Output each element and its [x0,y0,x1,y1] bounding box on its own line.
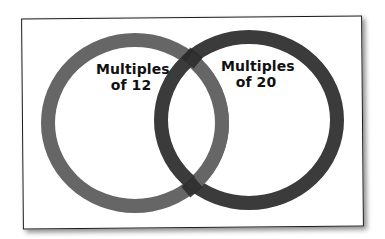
right-set-label: Multiples of 20 [221,58,291,90]
left-set-label-line2: of 12 [96,77,166,93]
right-set-label-line1: Multiples [221,58,291,74]
left-set-label-line1: Multiples [96,61,166,77]
venn-diagram [0,0,385,239]
right-set-label-line2: of 20 [221,74,291,90]
left-set-label: Multiples of 12 [96,61,166,93]
